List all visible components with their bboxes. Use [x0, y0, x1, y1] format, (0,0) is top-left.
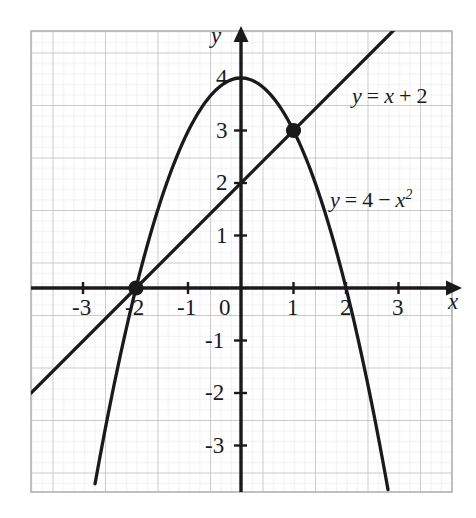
- equation-line-y: y: [352, 83, 362, 108]
- equation-parabola-var: x: [396, 187, 406, 212]
- equation-parabola-equals: =: [345, 187, 357, 212]
- equation-line-var: x: [384, 83, 394, 108]
- y-axis-name: y: [211, 24, 221, 47]
- equation-parabola-minus: −: [378, 187, 390, 212]
- origin-label: 0: [219, 296, 231, 319]
- x-tick-label-2: 2: [340, 296, 352, 319]
- intersection-point-left: [128, 280, 143, 295]
- x-tick-label-3: 3: [392, 296, 404, 319]
- x-axis-name: x: [448, 290, 458, 313]
- y-tick-label--2: -2: [205, 381, 224, 404]
- y-tick-label-1: 1: [216, 224, 228, 247]
- equation-line-const: 2: [416, 83, 427, 108]
- y-tick-label-2: 2: [216, 171, 228, 194]
- equation-parabola-exponent: 2: [405, 187, 412, 202]
- equation-parabola-y: y: [330, 187, 340, 212]
- x-tick-label--1: -1: [177, 296, 196, 319]
- x-tick-label--3: -3: [72, 296, 91, 319]
- equation-label-parabola: y=4−x2: [330, 188, 412, 211]
- y-tick-label--1: -1: [205, 329, 224, 352]
- y-tick-label-4: 4: [216, 66, 228, 89]
- x-tick-label--2: -2: [125, 296, 144, 319]
- y-tick-label--3: -3: [205, 434, 224, 457]
- x-tick-label-1: 1: [287, 296, 299, 319]
- intersection-point-right: [286, 123, 301, 138]
- coordinate-plane: [0, 0, 476, 518]
- equation-line-equals: =: [367, 83, 379, 108]
- equation-line-plus: +: [399, 83, 411, 108]
- graph-figure: -3 -2 -1 1 2 3 0 4 3 2 1 -1 -2 -3 x y y=…: [0, 0, 476, 518]
- y-tick-label-3: 3: [216, 119, 228, 142]
- equation-label-line: y=x+2: [352, 85, 427, 107]
- equation-parabola-four: 4: [362, 187, 373, 212]
